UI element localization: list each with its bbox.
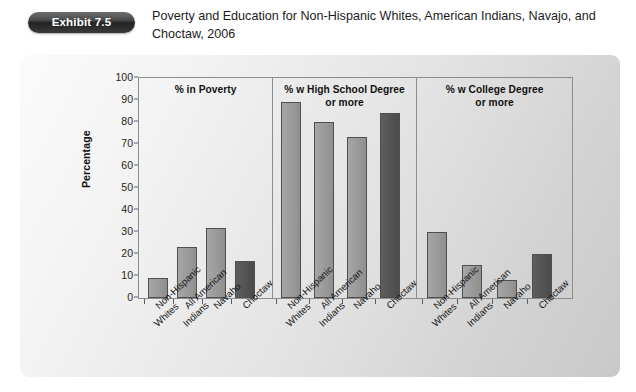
bar-series (139, 78, 272, 298)
figure-header: Exhibit 7.5 Poverty and Education for No… (0, 0, 636, 52)
chart-card: Percentage 0102030405060708090100 % in P… (20, 55, 620, 377)
y-axis-title: Percentage (80, 130, 92, 188)
y-tick-label: 80 (121, 116, 133, 127)
y-tick-label: 60 (121, 160, 133, 171)
y-axis: 0102030405060708090100 (110, 77, 138, 299)
chart-panel-1: % w High School Degree or more (272, 78, 416, 298)
bar (427, 232, 447, 298)
y-tick-label: 50 (121, 182, 133, 193)
y-tick-label: 20 (121, 248, 133, 259)
bar-series (273, 78, 416, 298)
y-tick-label: 0 (127, 292, 133, 303)
x-axis-labels: Non-HispanicWhitesAll AmericanIndiansNav… (139, 303, 609, 373)
panel-group: % in Poverty% w High School Degree or mo… (139, 78, 572, 298)
exhibit-number-badge: Exhibit 7.5 (28, 12, 135, 33)
y-tick-label: 70 (121, 138, 133, 149)
chart-panel-2: % w College Degree or more (416, 78, 572, 298)
chart-panel-0: % in Poverty (139, 78, 272, 298)
bar (380, 113, 400, 298)
y-tick-label: 40 (121, 204, 133, 215)
y-tick-label: 10 (121, 270, 133, 281)
exhibit-figure: Exhibit 7.5 Poverty and Education for No… (0, 0, 636, 392)
y-tick-label: 30 (121, 226, 133, 237)
y-tick-label: 90 (121, 94, 133, 105)
bar-series (417, 78, 572, 298)
figure-title: Poverty and Education for Non-Hispanic W… (152, 8, 604, 44)
y-tick-label: 100 (115, 72, 133, 83)
bar (281, 102, 301, 298)
